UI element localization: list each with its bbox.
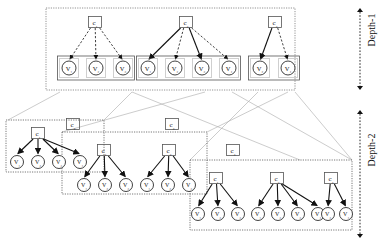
cluster-edge [168,156,169,177]
cluster-edge [95,28,96,59]
d2-g3-tag: c₃ [170,121,175,130]
d2-g4-c1-head: c₁ [214,175,219,184]
d2-g2-c2-head: c₂ [167,147,172,156]
d1-c2-head: c₂ [184,19,189,28]
cluster-edge [70,28,91,59]
cluster-edge [281,184,297,206]
cluster-edge [100,28,122,59]
cluster-edge [85,156,100,177]
cluster-edge [220,184,237,206]
d2-g1-c1-head: c₁ [36,130,41,139]
level-connector [104,92,132,120]
cluster-edge [108,156,125,177]
d2-g4-tag: c₃ [231,147,236,156]
level-connector [295,92,352,160]
d2-g2-tag: c₂ [71,121,76,130]
depth-2-axis-arrow-down [357,234,363,238]
group-boxes [6,8,352,230]
cluster-edge [261,28,272,59]
cluster-edge [259,184,273,206]
depth-axis [357,8,363,238]
cluster-edge [43,139,58,154]
cluster-edge [334,184,345,206]
depth-1-axis-arrow-up [357,8,363,12]
diagram-svg: V₁V₂V₃c₁V₁V₂V₃V₄c₂V₂V₄c₃V₁V₂V₃V₄c₁c₂V₁V₂… [0,0,390,244]
cluster-edge [176,28,184,59]
cluster-edge [217,184,218,206]
cluster-edge [278,28,288,59]
cluster-edge [148,156,165,177]
cluster-edge [104,156,105,177]
diagram-canvas: V₁V₂V₃c₁V₁V₂V₃V₄c₂V₂V₄c₃V₁V₂V₃V₄c₁c₂V₁V₂… [0,0,390,244]
cluster-edges [18,28,345,206]
d1-c3-head: c₃ [273,19,278,28]
level-connector [207,92,288,132]
cluster-edge [199,184,212,206]
cluster-edge [149,28,180,59]
cluster-edge [44,139,79,154]
depth-2-label: Depth-2 [366,134,377,167]
cluster-edge [282,184,317,206]
depth-1-axis-arrow-down [357,86,363,90]
level-connector [8,92,60,120]
cluster-edge [328,184,330,206]
d1-c1-head: c₁ [93,19,98,28]
level-connector [190,92,258,160]
depth-2-axis-arrow-up [357,110,363,114]
d2-g4-c3-head: c₃ [329,175,334,184]
cluster-edge [173,156,188,177]
inter-level-connectors [8,92,352,160]
cluster-edge [277,184,278,206]
d2-g4-c2-head: c₂ [275,175,280,184]
level-connector [232,92,352,160]
cluster-edge [18,139,33,154]
cluster-edge [189,28,201,59]
level-connector [132,92,300,160]
d2-g2-c1-head: c₁ [102,147,107,156]
cluster-edge [192,28,228,59]
depth-1-label: Depth-1 [366,14,377,47]
level-connector [62,92,205,132]
